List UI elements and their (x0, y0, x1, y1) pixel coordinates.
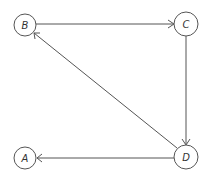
node-c[interactable]: C (174, 12, 198, 36)
node-label-c: C (183, 19, 190, 30)
edge-c-to-d (182, 36, 190, 145)
node-label-d: D (182, 152, 190, 163)
node-label-a: A (21, 153, 29, 164)
node-b[interactable]: B (14, 14, 36, 36)
edge-d-to-b (34, 33, 177, 148)
edge-d-to-a (37, 154, 174, 162)
graph-canvas: B C D A (0, 0, 208, 182)
node-d[interactable]: D (174, 145, 198, 169)
node-label-b: B (22, 20, 29, 31)
edge-b-to-c (36, 20, 174, 28)
node-a[interactable]: A (14, 147, 36, 169)
